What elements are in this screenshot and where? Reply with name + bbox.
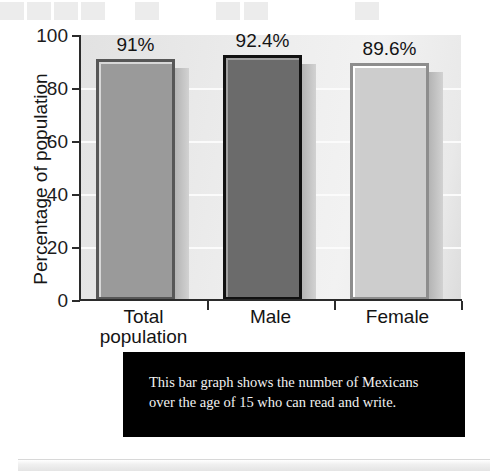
category-label-line: Female — [322, 307, 473, 327]
bar-shadow — [302, 64, 316, 300]
y-axis-tick — [72, 300, 80, 302]
bar[interactable] — [96, 59, 175, 300]
bar-shadow — [429, 72, 443, 300]
bar-fill — [353, 66, 426, 297]
x-axis-line — [79, 299, 462, 301]
caption-text: This bar graph shows the number of Mexic… — [149, 372, 449, 412]
y-axis-tick — [72, 88, 80, 90]
y-axis-title: Percentage of population — [30, 54, 52, 304]
bar-fill — [226, 58, 299, 297]
y-axis-tick — [72, 194, 80, 196]
bar-value-label: 89.6% — [330, 39, 449, 58]
plot-area — [80, 35, 461, 300]
caption-box: This bar graph shows the number of Mexic… — [123, 352, 465, 437]
category-label-line: population — [68, 327, 219, 347]
bar[interactable] — [223, 55, 302, 300]
bar-shadow — [175, 68, 189, 300]
y-axis-line — [79, 35, 81, 301]
y-axis-tick-label: 100 — [24, 26, 68, 45]
bar[interactable] — [350, 63, 429, 300]
bar-value-label: 91% — [76, 35, 195, 54]
bar-fill — [99, 62, 172, 297]
y-axis-tick — [72, 141, 80, 143]
bar-value-label: 92.4% — [203, 31, 322, 50]
y-axis-tick — [72, 247, 80, 249]
bottom-rule — [18, 459, 490, 471]
x-axis-category-label: Female — [322, 307, 473, 327]
